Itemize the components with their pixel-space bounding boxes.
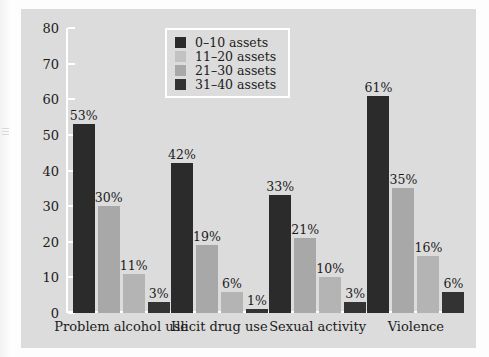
bar-value-label: 30% (95, 190, 123, 205)
legend-swatch (175, 79, 186, 90)
bar[interactable] (123, 274, 145, 313)
bar-value-label: 6% (222, 276, 242, 291)
legend-label: 31–40 assets (195, 77, 276, 92)
legend-item[interactable]: 0–10 assets (175, 35, 276, 49)
legend-swatch (175, 65, 186, 76)
legend-item[interactable]: 21–30 assets (175, 63, 276, 77)
bar[interactable] (98, 206, 120, 313)
bar-item[interactable]: 19% (196, 245, 218, 313)
bar-group: 53%30%11%3% (73, 28, 170, 313)
y-tick-label: 70 (42, 56, 59, 71)
bar-item[interactable]: 1% (246, 309, 268, 313)
plot-panel: 01020304050607080 53%30%11%3%42%19%6%1%3… (21, 9, 476, 348)
bar-value-label: 3% (345, 286, 365, 301)
bar-item[interactable]: 3% (344, 302, 366, 313)
bar-item[interactable]: 3% (148, 302, 170, 313)
bar-item[interactable]: 10% (319, 277, 341, 313)
bar[interactable] (294, 238, 316, 313)
bar-item[interactable]: 16% (417, 256, 439, 313)
scan-edge-artifact (0, 0, 14, 357)
bar-value-label: 19% (193, 229, 221, 244)
bar[interactable] (417, 256, 439, 313)
chart-figure: 01020304050607080 53%30%11%3%42%19%6%1%3… (0, 0, 489, 357)
legend-item[interactable]: 11–20 assets (175, 49, 276, 63)
bar[interactable] (367, 96, 389, 313)
bar-item[interactable]: 21% (294, 238, 316, 313)
bar-value-label: 53% (70, 108, 98, 123)
bar[interactable] (221, 292, 243, 313)
y-tick-label: 20 (42, 234, 59, 249)
bar-item[interactable]: 53% (73, 124, 95, 313)
bar-value-label: 6% (443, 276, 463, 291)
x-axis-category-label: Sexual activity (269, 319, 366, 334)
legend-item[interactable]: 31–40 assets (175, 77, 276, 91)
bar[interactable] (442, 292, 464, 313)
bar[interactable] (171, 163, 193, 313)
x-axis-category-label: Problem alcohol use (54, 319, 188, 334)
y-tick-label: 60 (42, 92, 59, 107)
y-tick-label: 80 (42, 21, 59, 36)
bar-item[interactable]: 61% (367, 96, 389, 313)
bar-item[interactable]: 42% (171, 163, 193, 313)
legend-label: 21–30 assets (195, 63, 276, 78)
bar[interactable] (196, 245, 218, 313)
bar-item[interactable]: 6% (442, 292, 464, 313)
bar[interactable] (269, 195, 291, 313)
bar-item[interactable]: 11% (123, 274, 145, 313)
bar-item[interactable]: 6% (221, 292, 243, 313)
bar-item[interactable]: 30% (98, 206, 120, 313)
bar-value-label: 11% (120, 258, 148, 273)
bar[interactable] (246, 309, 268, 313)
bar-value-label: 16% (414, 240, 442, 255)
bar-item[interactable]: 33% (269, 195, 291, 313)
bar-value-label: 1% (247, 293, 267, 308)
chart-legend: 0–10 assets11–20 assets21–30 assets31–40… (165, 28, 290, 98)
bar-item[interactable]: 35% (392, 188, 414, 313)
y-tick-label: 30 (42, 199, 59, 214)
y-tick-label: 10 (42, 270, 59, 285)
bar[interactable] (319, 277, 341, 313)
x-axis-category-label: Violence (388, 319, 444, 334)
legend-swatch (175, 37, 186, 48)
legend-label: 0–10 assets (195, 35, 268, 50)
bar[interactable] (344, 302, 366, 313)
bar-value-label: 35% (389, 172, 417, 187)
bar-value-label: 10% (316, 261, 344, 276)
bar-value-label: 33% (266, 179, 294, 194)
bar-value-label: 21% (291, 222, 319, 237)
bar-value-label: 3% (149, 286, 169, 301)
bar-value-label: 42% (168, 147, 196, 162)
bar-value-label: 61% (364, 80, 392, 95)
y-tick-label: 50 (42, 127, 59, 142)
bar[interactable] (392, 188, 414, 313)
legend-label: 11–20 assets (195, 49, 276, 64)
y-tick-label: 40 (42, 163, 59, 178)
bar-group: 61%35%16%6% (367, 28, 464, 313)
legend-swatch (175, 51, 186, 62)
bar[interactable] (73, 124, 95, 313)
x-axis-category-label: Illicit drug use (171, 319, 268, 334)
bar[interactable] (148, 302, 170, 313)
